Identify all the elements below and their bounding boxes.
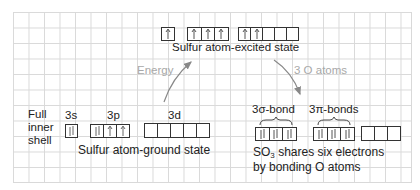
pi-bond-orbitals: [313, 127, 355, 141]
orbital-box: [283, 128, 296, 140]
orbital-box: [388, 127, 400, 140]
spin-pair-icon: [330, 129, 337, 139]
orbital-box: [362, 127, 375, 140]
pi-brace-icon: [318, 117, 350, 125]
orbital-box: [314, 128, 328, 140]
orbital-box: [256, 128, 270, 140]
empty-d-orbitals: [361, 126, 401, 141]
so3-caption-line2: by bonding O atoms: [253, 161, 360, 174]
spin-pair-icon: [259, 129, 266, 139]
sigma-brace-icon: [260, 117, 292, 125]
orbital-box: [341, 128, 354, 140]
spin-pair-icon: [317, 129, 324, 139]
spin-pair-icon: [344, 129, 351, 139]
sigma-bond-orbitals: [255, 127, 297, 141]
orbital-box: [375, 127, 388, 140]
spin-pair-icon: [286, 129, 293, 139]
orbital-box: [328, 128, 342, 140]
orbital-box: [270, 128, 284, 140]
spin-pair-icon: [272, 129, 279, 139]
